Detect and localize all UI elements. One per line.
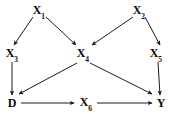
node-label-subscript: 4 bbox=[85, 54, 89, 63]
node-y: Y bbox=[157, 97, 166, 109]
edge-x2-to-x4 bbox=[92, 17, 133, 45]
node-label-base: D bbox=[8, 96, 17, 110]
node-label-subscript: 6 bbox=[88, 103, 92, 112]
node-label-base: Y bbox=[157, 96, 166, 110]
node-label-subscript: 5 bbox=[158, 54, 162, 63]
node-x2: X2 bbox=[133, 4, 145, 19]
edge-x1-to-x4 bbox=[46, 17, 76, 45]
edge-x1-to-x3 bbox=[14, 17, 33, 45]
node-label-subscript: 2 bbox=[141, 11, 145, 20]
node-x3: X3 bbox=[6, 47, 18, 62]
node-x6: X6 bbox=[80, 96, 92, 111]
node-label-subscript: 1 bbox=[41, 11, 45, 20]
edge-x4-to-y bbox=[90, 63, 152, 94]
node-d: D bbox=[8, 97, 17, 109]
edge-x4-to-d bbox=[19, 63, 77, 94]
node-x4: X4 bbox=[77, 47, 89, 62]
edge-x5-to-y bbox=[158, 62, 160, 95]
node-x1: X1 bbox=[33, 4, 45, 19]
node-x5: X5 bbox=[150, 47, 162, 62]
node-label-subscript: 3 bbox=[14, 54, 18, 63]
edge-x2-to-x5 bbox=[145, 17, 160, 45]
causal-dag-diagram: X1X2X3X4X5DX6Y bbox=[0, 0, 175, 114]
